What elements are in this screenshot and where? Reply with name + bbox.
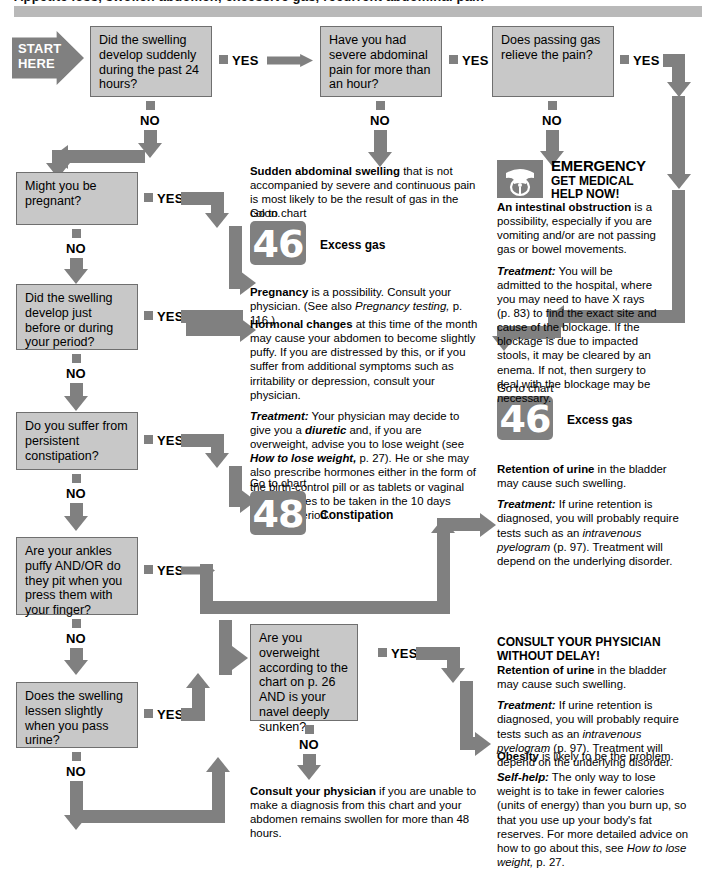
yes-arrow-q1-to-q2 [267,54,313,67]
chart-number-46a[interactable]: 46 [250,221,306,265]
question-text-q6: Do you suffer from persistent constipati… [25,419,128,463]
connector-q1-no-h [63,150,145,163]
telephone-icon [497,160,543,198]
question-box-q8[interactable]: Does the swelling lessen slightly when y… [16,682,138,748]
start-line-2: HERE [18,57,84,72]
arrowhead-q7-yes-right [480,513,496,537]
no-label-q9: NO [299,737,319,752]
outcome-obstruction-lead: An intestinal obstruction [497,201,631,213]
yes-label-q9: YES [391,646,418,661]
outcome-obesity-body: is likely to be the problem. [539,750,674,762]
no-label-q3: NO [542,113,562,128]
connector-bottom-rail-up [212,768,225,823]
connector-q5-yes-h2 [186,323,244,336]
emergency-subtitle: GET MEDICAL HELP NOW! [551,175,634,201]
connector-q4-yes-v [211,192,224,216]
no-tick-q2 [376,101,385,110]
arrowhead-q6-no [64,516,88,531]
yes-label-q1: YES [232,53,259,68]
question-text-q7: Are your ankles puffy AND/OR do they pit… [25,544,122,617]
arrowhead-q9-no [297,765,321,780]
yes-tick-q3 [620,55,629,64]
outcome-hormonal-body: at this time of the month may cause your… [250,318,477,401]
connector-q9-yes-v [447,647,460,671]
arrowhead-right-rail-upper [667,174,691,189]
arrowhead-q8-yes-up [186,673,210,688]
no-label-q8: NO [66,764,86,779]
consult-physician-heading: CONSULT YOUR PHYSICIAN WITHOUT DELAY! [497,636,687,663]
question-text-q5: Did the swelling develop just before or … [25,291,113,349]
outcome-obesity-self-lead: Self-help: [497,771,549,783]
question-text-q3: Does passing gas relieve the pain? [501,33,600,62]
consult-heading-line2: WITHOUT DELAY! [497,650,687,664]
no-label-q1: NO [140,113,160,128]
arrowhead-q4-yes [205,213,229,228]
arrowhead-q4-no [64,269,88,284]
no-label-q5: NO [66,366,86,381]
yes-tick-q4 [144,193,153,202]
yes-label-q4: YES [157,191,184,206]
no-tick-q1 [146,101,155,110]
arrowhead-q5-no [64,396,88,411]
question-box-q6[interactable]: Do you suffer from persistent constipati… [16,412,138,470]
question-box-q1[interactable]: Did the swelling develop suddenly during… [90,26,212,97]
go-to-chart-label-48: Go to chart [250,477,306,489]
no-label-q7: NO [66,631,86,646]
yes-label-q5: YES [157,309,184,324]
connector-q3-no-v [546,130,559,154]
outcome-urine-lower-lead: Retention of urine [497,664,594,676]
no-tick-q8 [72,752,81,761]
question-box-q4[interactable]: Might you be pregnant? [16,172,138,225]
connector-right-rail-lower [672,190,685,323]
connector-q8-yes-v [192,685,205,721]
no-tick-q9 [305,725,314,734]
connector-bottom-rail [70,810,225,823]
yes-label-q3: YES [633,53,660,68]
chart-label-48: Constipation [320,508,393,522]
connector-q8-yes-rail [219,620,232,675]
no-tick-q7 [72,619,81,628]
arrowhead-q6-yes [205,453,229,468]
outcome-hormonal-treat-i1: diuretic [305,424,346,436]
header-rule [14,6,702,17]
yes-tick-q7 [144,565,153,574]
no-tick-q3 [548,101,557,110]
outcome-pregnancy-lead: Pregnancy [250,286,308,298]
outcome-obstruction-text: An intestinal obstruction is a possibili… [497,200,658,405]
question-text-q1: Did the swelling develop suddenly during… [99,33,199,91]
question-text-q9: Are you overweight according to the char… [259,631,348,734]
connector-right-rail-upper [672,96,685,177]
start-here-marker: START HERE [12,31,84,85]
question-box-q3[interactable]: Does passing gas relieve the pain? [492,26,614,97]
chart-number-48[interactable]: 48 [250,491,306,535]
outcome-hormonal-treat-i2: How to lose weight, [250,452,356,464]
emergency-title: EMERGENCY [551,158,646,174]
question-box-q2[interactable]: Have you had severe abdominal pain for m… [320,26,442,97]
question-box-q9[interactable]: Are you overweight according to the char… [250,624,358,721]
question-box-q7[interactable]: Are your ankles puffy AND/OR do they pit… [16,537,138,615]
outcome-urine-upper-text: Retention of urine in the bladder may ca… [497,462,682,568]
no-tick-q5 [72,354,81,363]
yes-label-q8: YES [157,707,184,722]
arrowhead-q3-yes [667,82,691,97]
outcome-gas-lead: Sudden abdominal swelling [250,165,400,177]
outcome-obstruction-treat-body: You will be admitted to the hospital, wh… [497,265,657,404]
no-label-q6: NO [66,486,86,501]
yes-label-q2: YES [462,53,489,68]
arrowhead-into-q9 [232,646,248,670]
outcome-obesity-text: Obesity is likely to be the problem. Sel… [497,749,689,869]
yes-tick-q2 [449,55,458,64]
question-text-q4: Might you be pregnant? [25,179,97,208]
question-box-q5[interactable]: Did the swelling develop just before or … [16,284,138,350]
outcome-urine-upper-lead: Retention of urine [497,463,594,475]
go-to-chart-label-46a: Go to chart [250,207,306,219]
start-line-1: START [18,42,84,57]
outcome-urine-upper-treat-lead: Treatment: [497,498,556,510]
chart-label-46b: Excess gas [567,413,632,427]
connector-q7-yes-h2 [437,518,485,531]
outcome-obesity-self-2: p. 27. [533,856,565,868]
connector-q7-yes-v2 [437,530,450,608]
yes-tick-q6 [144,435,153,444]
yes-label-q6: YES [157,433,184,448]
outcome-final-lead: Consult your physician [250,785,376,797]
